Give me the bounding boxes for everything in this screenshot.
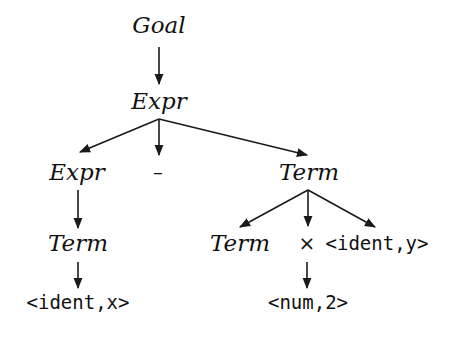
node-goal: Goal — [132, 14, 185, 37]
node-ident-y: <ident,y> — [326, 234, 429, 253]
node-term-inner: Term — [210, 232, 270, 255]
parse-tree-diagram: Goal Expr Expr – Term Term Term × <ident… — [0, 0, 457, 346]
node-num-2: <num,2> — [268, 293, 348, 312]
node-expr-left: Expr — [49, 161, 104, 184]
node-minus-operator: – — [153, 162, 163, 182]
node-ident-x: <ident,x> — [27, 293, 130, 312]
node-term-right: Term — [279, 161, 339, 184]
node-term-left: Term — [48, 232, 108, 255]
edge-term-terminner — [240, 190, 308, 227]
edge-term-identy — [308, 190, 375, 227]
edge-expr-term — [159, 119, 307, 155]
node-expr-root: Expr — [131, 90, 186, 113]
node-times-operator: × — [299, 233, 316, 253]
edge-expr-exprleft — [80, 119, 159, 152]
